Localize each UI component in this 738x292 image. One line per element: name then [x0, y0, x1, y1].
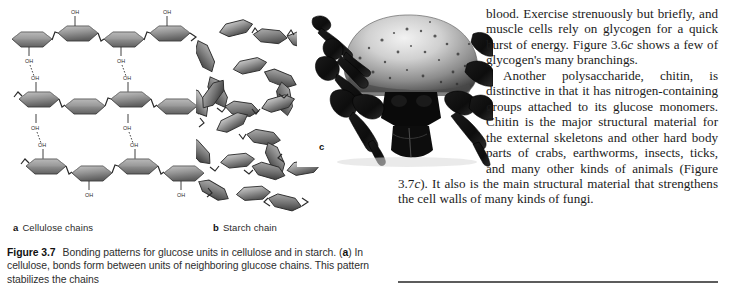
panel-label-a-text: Cellulose chains: [22, 222, 93, 233]
oh-label: OH: [123, 125, 131, 131]
oh-label: OH: [71, 9, 79, 15]
body-text-column: blood. Exercise strenuously but briefly,…: [398, 6, 718, 207]
oh-label: OH: [117, 58, 125, 64]
oh-label: OH: [25, 58, 33, 64]
panel-label-b: bStarch chain: [213, 222, 277, 233]
panel-label-a: aCellulose chains: [13, 222, 93, 233]
cellulose-chain-row-3: OH OH OH OH: [21, 142, 204, 198]
oh-label: OH: [38, 142, 46, 148]
hydrogen-bonds-2-3: [37, 132, 133, 143]
oh-label: OH: [177, 192, 185, 198]
figure-number: Figure 3.7: [7, 247, 56, 258]
textbook-page: OH OH OH OH OH OH: [0, 0, 738, 292]
panel-label-b-text: Starch chain: [223, 222, 277, 233]
section-divider: [398, 281, 718, 283]
hydrogen-bonds-1-2: [30, 65, 126, 76]
panel-letter-b: b: [213, 222, 219, 233]
panel-letter-a: a: [13, 222, 18, 233]
oh-label: OH: [163, 9, 171, 15]
photo-text-wrap-spacer: [398, 6, 486, 164]
oh-label: OH: [31, 125, 39, 131]
cellulose-chain-row-1: OH OH OH OH: [12, 9, 196, 64]
oh-label: OH: [123, 75, 131, 81]
cellulose-chains-svg: OH OH OH OH OH OH: [0, 0, 205, 216]
caption-line-1: Bonding patterns for glucose units in ce…: [63, 247, 272, 258]
paragraph-chitin-post: ). It also is the main structural materi…: [398, 176, 718, 206]
cellulose-chain-row-2: OH OH OH OH: [14, 75, 203, 131]
oh-label: OH: [130, 142, 138, 148]
figure-caption: Figure 3.7Bonding patterns for glucose u…: [7, 246, 379, 286]
panel-label-c: c: [319, 141, 324, 152]
oh-label: OH: [31, 75, 39, 81]
oh-label: OH: [85, 192, 93, 198]
caption-line-2-pre: and in starch. (: [275, 247, 343, 258]
cellulose-chains-diagram: OH OH OH OH OH OH: [0, 0, 205, 216]
